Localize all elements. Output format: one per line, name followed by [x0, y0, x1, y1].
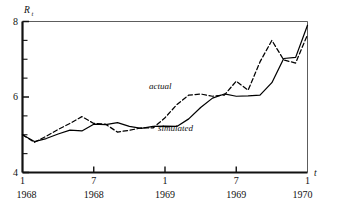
x-tick-month-label: 7: [234, 175, 239, 186]
x-tick-month-label: 1: [305, 175, 310, 186]
chart-figure: 468 17171 19681968196919691970 R t t act…: [0, 0, 344, 217]
x-tick-year-label: 1969: [155, 189, 175, 200]
y-axis-name-subscript: t: [32, 10, 34, 17]
x-tick-month-label: 7: [91, 175, 96, 186]
y-tick-label: 8: [13, 16, 18, 27]
chart-svg: 468 17171 19681968196919691970 R t t act…: [0, 0, 344, 217]
x-tick-month-label: 1: [20, 175, 25, 186]
x-tick-year-label: 1968: [84, 189, 104, 200]
x-tick-year-label: 1968: [17, 189, 37, 200]
y-tick-label: 4: [13, 167, 18, 178]
x-tick-year-label: 1970: [293, 189, 313, 200]
x-axis-name: t: [314, 168, 317, 178]
annotation-actual: actual: [149, 81, 172, 91]
y-tick-label: 6: [13, 91, 18, 102]
y-axis-name: R: [23, 5, 30, 15]
x-tick-month-label: 1: [163, 175, 168, 186]
x-tick-year-label: 1969: [226, 189, 246, 200]
figure-background: [0, 0, 344, 217]
annotation-simulated: simulated: [158, 123, 193, 133]
